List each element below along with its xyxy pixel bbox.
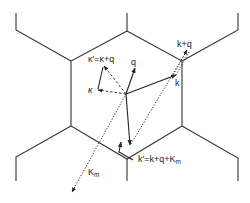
vector-kappa-prime — [104, 66, 126, 94]
label-kappa-relation: κ'=κ+q — [88, 54, 114, 64]
vector-k-prime — [126, 94, 130, 145]
vector-translated-k-plus-q — [131, 52, 186, 144]
edge-bottom-left — [16, 126, 71, 181]
edge-top-right — [182, 13, 238, 61]
hexagon-lattice — [16, 13, 238, 181]
label-k: k — [175, 78, 180, 88]
label-K-m-sub: m — [94, 171, 99, 178]
vector-q — [126, 68, 135, 94]
vector-kappa — [98, 90, 126, 94]
edge-top-left — [16, 13, 71, 61]
labels: κ'=κ+q κ q k+q k k'=k+q+Km Km — [88, 39, 192, 178]
label-K-m: Km — [88, 167, 99, 178]
label-k-prime-sub: m — [176, 158, 181, 165]
label-q: q — [131, 57, 136, 67]
vector-k — [126, 75, 176, 94]
label-k-prime-relation: k'=k+q+Km — [138, 154, 181, 165]
label-kappa: κ — [88, 85, 93, 95]
brillouin-zone-diagram: κ'=κ+q κ q k+q k k'=k+q+Km Km — [0, 0, 250, 203]
vector-kappa-to-kappa-prime — [98, 67, 103, 89]
edge-bottom-right — [182, 126, 238, 181]
label-k-prime-main: k'=k+q+K — [138, 154, 176, 164]
label-k-plus-q: k+q — [177, 39, 192, 49]
